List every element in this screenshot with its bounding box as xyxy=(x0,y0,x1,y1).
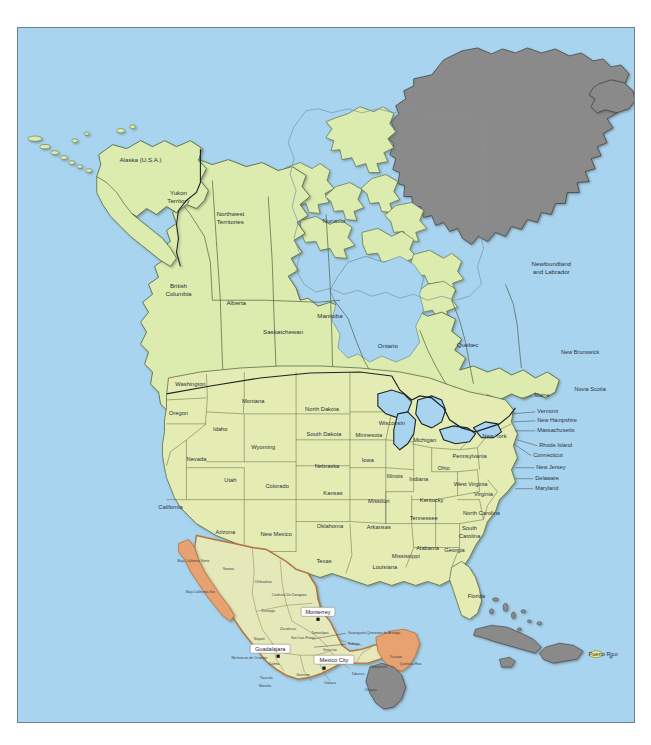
label-illinois: Illinois xyxy=(387,473,403,479)
label-montana: Montana xyxy=(242,398,265,404)
label-yukon-territory-2: Territory xyxy=(167,197,190,204)
label-south-dakota: South Dakota xyxy=(307,431,343,437)
label-massachusetts: Massachusetts xyxy=(537,427,574,433)
label-iowa: Iowa xyxy=(362,457,375,463)
label-north-dakota: North Dakota xyxy=(305,406,340,412)
city-dot-guadalajara xyxy=(277,655,280,658)
label-monterrey: Monterrey xyxy=(305,609,330,615)
label-tabasco: Tabasco xyxy=(351,672,364,676)
caribbean-islands xyxy=(474,598,584,667)
label-utah: Utah xyxy=(224,477,236,483)
label-kentucky: Kentucky xyxy=(420,497,444,503)
label-wyoming: Wyoming xyxy=(251,444,275,450)
label-arkansas: Arkansas xyxy=(367,524,391,530)
label-nebraska: Nebraska xyxy=(315,463,340,469)
label-indiana: Indiana xyxy=(409,476,429,482)
label-michigan: Michigan xyxy=(413,437,436,443)
label-rhode-island: Rhode Island xyxy=(539,442,572,448)
label-newfoundland-and-labrador: Newfoundland xyxy=(532,260,572,267)
label-northwest-territories-2: Territories xyxy=(217,218,244,225)
label-idaho: Idaho xyxy=(213,426,227,432)
label-texas: Texas xyxy=(316,558,331,564)
label-chiapas: Chiapas xyxy=(364,688,377,692)
label-newfoundland-and-labrador-2: and Labrador xyxy=(533,268,570,275)
leader-new-hampshire xyxy=(513,421,535,422)
label-zacatecas: Zacatecas xyxy=(280,627,296,631)
label-chihuahua: Chihuahua xyxy=(255,580,272,584)
label-kansas: Kansas xyxy=(323,490,342,496)
label-tamaulipas: Tamaulipas xyxy=(311,631,329,635)
label-wisconsin: Wisconsin xyxy=(379,420,405,426)
label-san-luis-potosi: San Luis Potosi xyxy=(291,636,315,640)
label-nayarit: Nayarit xyxy=(254,637,265,641)
label-new-hampshire: New Hampshire xyxy=(537,417,577,423)
map-frame: Alaska (U.S.A.) Yukon Territory Northwes… xyxy=(17,27,635,723)
label-alabama: Alabama xyxy=(416,545,440,551)
label-maine: Maine xyxy=(534,392,549,398)
label-florida: Florida xyxy=(468,593,486,599)
label-durango: Durango xyxy=(262,609,275,613)
label-puerto-rico: Puerto Rico xyxy=(589,651,618,657)
label-guerrero: Guerrero xyxy=(296,673,310,677)
label-delaware: Delaware xyxy=(535,475,559,481)
label-northwest-territories: Northwest xyxy=(216,210,244,217)
label-missouri: Missouri xyxy=(368,498,389,504)
label-alberta: Alberta xyxy=(227,299,247,306)
label-veracruz: Veracruz xyxy=(323,648,337,652)
label-campeche: Campeche xyxy=(370,665,387,669)
label-hidalgo: Hidalgo xyxy=(348,642,360,646)
label-colima: Colima xyxy=(269,662,280,666)
label-alaska: Alaska (U.S.A.) xyxy=(120,156,162,163)
leader-rhode-island xyxy=(517,440,537,446)
label-arizona: Arizona xyxy=(216,529,236,535)
city-dot-monterrey xyxy=(316,618,319,621)
florida-peninsula xyxy=(450,561,482,619)
label-saskatchewan: Saskatchewan xyxy=(263,328,304,335)
usa-callout-labels: MaineVermontNew HampshireMassachusettsRh… xyxy=(511,392,577,491)
label-new-jersey: New Jersey xyxy=(536,464,565,470)
label-oklahoma: Oklahoma xyxy=(317,523,344,529)
label-tlaxcala: Tlaxcala xyxy=(260,676,273,680)
label-pennsylvania: Pennsylvania xyxy=(452,453,487,459)
label-morelos: Morelos xyxy=(259,684,272,688)
label-mississippi: Mississippi xyxy=(392,553,420,559)
label-south-carolina-2: Carolina xyxy=(459,533,481,539)
label-west-virginia: West Virginia xyxy=(454,481,489,487)
label-ontario: Ontario xyxy=(378,342,399,349)
label-california: California xyxy=(158,504,183,510)
label-washington: Washington xyxy=(175,382,205,388)
label-georgia: Georgia xyxy=(444,547,465,553)
label-minnesota: Minnesota xyxy=(356,432,383,438)
label-coahuila-de-zaragoza: Coahuila De Zaragoza xyxy=(272,593,307,597)
label-oaxaca: Oaxaca xyxy=(324,681,336,685)
label-louisiana: Louisiana xyxy=(372,564,397,570)
label-oregon: Oregon xyxy=(169,410,188,416)
label-vermont: Vermont xyxy=(537,408,558,414)
label-new-brunswick: New Brunswick xyxy=(561,349,599,355)
greenland-landmass xyxy=(389,48,629,244)
label-british-columbia: British xyxy=(170,282,188,289)
city-dot-mexico-city xyxy=(322,667,325,670)
label-manitoba: Manitoba xyxy=(317,312,343,319)
label-michoacan-de-ocampo: Michoacan de Ocampo xyxy=(231,656,267,660)
label-novia-scotia: Novia Scotia xyxy=(574,386,606,392)
label-virginia: Virginia xyxy=(474,491,494,497)
label-connecticut: Connecticut xyxy=(533,452,563,458)
label-maryland: Maryland xyxy=(535,485,558,491)
label-new-york: New York xyxy=(482,433,506,439)
label-ohio: Ohio xyxy=(438,465,450,471)
label-tennessee: Tennessee xyxy=(410,515,438,521)
label-baja-california-norte: Baja California Norte xyxy=(177,559,209,563)
label-colorado: Colorado xyxy=(265,483,288,489)
label-south-carolina-1: South xyxy=(462,525,477,531)
label-nunavut: Nunavut xyxy=(322,217,345,224)
label-guanajuato-queretaro-de-arteaga: Guanajuato Queretaro de Arteaga xyxy=(348,631,400,635)
label-yukon-territory: Yukon xyxy=(170,189,188,196)
label-new-mexico: New Mexico xyxy=(260,531,291,537)
label-yucatan: Yucatan xyxy=(390,655,403,659)
label-british-columbia-2: Columbia xyxy=(165,290,192,297)
label-mexico-city: Mexico City xyxy=(320,657,349,663)
label-sonora: Sonora xyxy=(223,567,234,571)
label-nevada: Nevada xyxy=(186,456,207,462)
north-america-map: Alaska (U.S.A.) Yukon Territory Northwes… xyxy=(18,28,634,722)
